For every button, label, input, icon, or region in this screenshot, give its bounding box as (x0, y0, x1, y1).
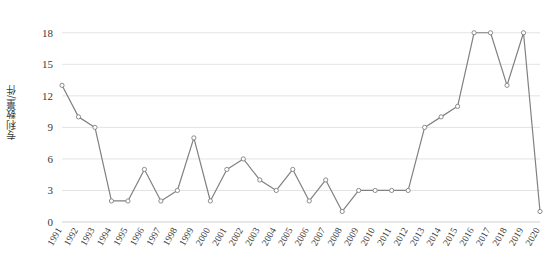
data-point-marker (93, 125, 97, 129)
y-tick-label: 15 (42, 58, 54, 70)
x-tick-label: 1998 (161, 226, 179, 248)
x-tick-label: 1991 (46, 226, 64, 248)
x-tick-label: 2019 (507, 226, 525, 248)
data-point-marker (159, 199, 163, 203)
x-tick-label: 2008 (326, 226, 344, 248)
data-point-marker (274, 188, 278, 192)
x-tick-label: 2006 (293, 226, 311, 248)
data-point-marker (225, 167, 229, 171)
data-point-marker (505, 83, 509, 87)
y-tick-label: 9 (48, 121, 54, 133)
chart-canvas: 0369121518 19911992199319941995199619971… (0, 0, 548, 265)
x-tick-label: 2009 (342, 226, 360, 248)
data-point-marker (439, 115, 443, 119)
y-tick-label: 12 (42, 90, 53, 102)
y-tick-label: 6 (48, 153, 54, 165)
data-point-marker (521, 31, 525, 35)
data-point-marker (455, 104, 459, 108)
data-series-line (62, 33, 540, 212)
x-tick-label: 2003 (243, 226, 261, 248)
data-point-marker (324, 178, 328, 182)
data-point-marker (192, 136, 196, 140)
x-tick-label: 2007 (309, 226, 327, 248)
x-axis-tick-labels: 1991199219931994199519961997199819992000… (46, 226, 542, 248)
data-point-marker (142, 167, 146, 171)
x-tick-label: 2000 (194, 226, 212, 248)
x-tick-label: 1996 (128, 226, 146, 248)
x-tick-label: 2004 (260, 226, 278, 248)
data-point-marker (241, 157, 245, 161)
x-tick-label: 2013 (408, 226, 426, 248)
data-point-marker (307, 199, 311, 203)
data-point-marker (175, 188, 179, 192)
data-point-marker (60, 83, 64, 87)
x-tick-label: 1995 (112, 226, 130, 248)
x-tick-label: 2005 (276, 226, 294, 248)
data-point-marker (340, 209, 344, 213)
x-tick-label: 2011 (375, 226, 393, 247)
x-tick-label: 1999 (177, 226, 195, 248)
y-tick-label: 3 (48, 184, 54, 196)
y-tick-label: 0 (48, 216, 54, 228)
x-tick-label: 1992 (62, 226, 80, 248)
data-point-marker (538, 209, 542, 213)
x-tick-label: 1994 (95, 226, 113, 248)
data-point-marker (390, 188, 394, 192)
data-point-marker (423, 125, 427, 129)
data-point-marker (76, 115, 80, 119)
data-point-marker (357, 188, 361, 192)
x-tick-label: 2015 (441, 226, 459, 248)
data-point-marker (126, 199, 130, 203)
data-point-marker (258, 178, 262, 182)
series-polyline (62, 33, 540, 212)
data-point-marker (488, 31, 492, 35)
x-tick-label: 2017 (474, 226, 492, 248)
x-tick-label: 1993 (79, 226, 97, 248)
patent-count-line-chart: 0369121518 19911992199319941995199619971… (0, 0, 548, 265)
x-tick-label: 2010 (359, 226, 377, 248)
x-tick-label: 2001 (210, 226, 228, 248)
data-point-marker (406, 188, 410, 192)
x-tick-label: 2002 (227, 226, 245, 248)
x-tick-label: 2014 (425, 226, 443, 248)
x-tick-label: 2016 (458, 226, 476, 248)
data-point-marker (373, 188, 377, 192)
data-point-marker (208, 199, 212, 203)
data-point-marker (109, 199, 113, 203)
x-tick-label: 2018 (491, 226, 509, 248)
data-point-marker (472, 31, 476, 35)
y-tick-label: 18 (42, 27, 54, 39)
x-tick-label: 2020 (524, 226, 542, 248)
y-axis-tick-labels: 0369121518 (42, 27, 54, 228)
x-tick-label: 2012 (392, 226, 410, 248)
data-point-marker (291, 167, 295, 171)
x-tick-label: 1997 (144, 226, 162, 248)
